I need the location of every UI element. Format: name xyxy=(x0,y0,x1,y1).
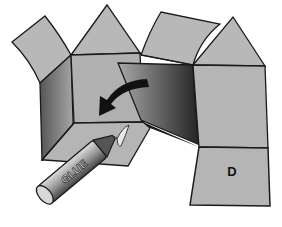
folding-house-illustration: D GLUE xyxy=(0,0,282,227)
panel-d-label: D xyxy=(227,164,236,179)
left-gable xyxy=(71,5,140,55)
diagram: D GLUE xyxy=(0,0,282,227)
right-wall xyxy=(193,65,268,148)
